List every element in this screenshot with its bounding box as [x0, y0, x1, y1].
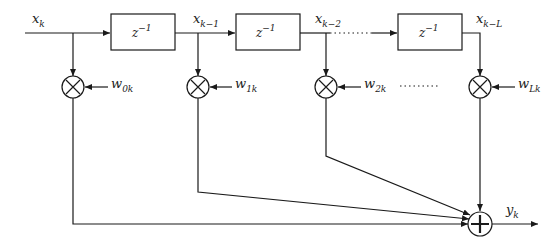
- tap-label-1: xk−1: [193, 11, 219, 29]
- multiplier-2: [315, 76, 337, 98]
- adder: [468, 212, 492, 236]
- weight-label-2: w2k: [364, 76, 386, 94]
- weight-label-1: w1k: [235, 76, 257, 94]
- weight-label-0: w0k: [111, 76, 133, 94]
- signal-line-4: [462, 33, 480, 76]
- product-line-0: [73, 98, 468, 224]
- tap-label-L: xk−L: [476, 11, 502, 29]
- multiplier-0: [62, 76, 84, 98]
- input-label: xk: [32, 11, 45, 29]
- output-label: yk: [505, 202, 519, 220]
- tap-label-2: xk−2: [315, 11, 341, 29]
- multiplier-1: [187, 76, 209, 98]
- multiplier-L: [469, 76, 491, 98]
- product-line-2: [326, 98, 470, 215]
- fir-filter-diagram: xk z−1 xk−1 z−1 xk−2 z−1 xk−L w0k w1k w2…: [0, 0, 555, 245]
- weight-label-L: wLk: [518, 76, 541, 94]
